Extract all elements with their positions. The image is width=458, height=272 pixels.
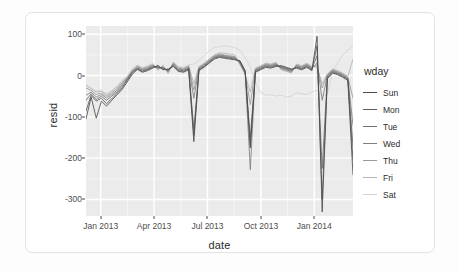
legend-item-label: Fri <box>383 173 393 183</box>
legend-title: wday <box>362 65 432 77</box>
x-axis: Jan 2013Apr 2013Jul 2013Oct 2013Jan 2014 <box>86 216 353 236</box>
y-tick-label: 0 <box>30 71 82 81</box>
y-axis-title: resid <box>47 85 59 145</box>
legend-item-sun: Sun <box>362 84 432 101</box>
plot-canvas <box>86 26 353 216</box>
y-tick-label: -200 <box>30 153 82 163</box>
y-tick-mark <box>82 116 85 117</box>
x-tick-mark <box>207 216 208 219</box>
x-tick-label: Jan 2014 <box>297 221 332 231</box>
legend-item-label: Tue <box>383 122 397 132</box>
ggplot-figure: 1000-100-200-300 Jan 2013Apr 2013Jul 201… <box>26 13 434 252</box>
legend-item-sat: Sat <box>362 186 432 203</box>
x-tick-label: Apr 2013 <box>137 221 172 231</box>
y-tick-mark <box>82 158 85 159</box>
legend-item-mon: Mon <box>362 101 432 118</box>
legend-items: SunMonTueWedThuFriSat <box>362 84 432 203</box>
legend-item-tue: Tue <box>362 118 432 135</box>
legend-item-label: Wed <box>383 139 400 149</box>
legend-item-thu: Thu <box>362 152 432 169</box>
screenshot-root: 1000-100-200-300 Jan 2013Apr 2013Jul 201… <box>0 0 458 272</box>
legend-key-line-icon <box>362 170 378 185</box>
y-tick-mark <box>82 75 85 76</box>
legend: wday SunMonTueWedThuFriSat <box>362 65 432 203</box>
chart-card: 1000-100-200-300 Jan 2013Apr 2013Jul 201… <box>25 12 435 253</box>
legend-key-line-icon <box>362 136 378 151</box>
y-tick-mark <box>82 199 85 200</box>
legend-key-line-icon <box>362 119 378 134</box>
x-tick-label: Oct 2013 <box>244 221 279 231</box>
y-tick-mark <box>82 34 85 35</box>
legend-item-fri: Fri <box>362 169 432 186</box>
y-tick-label: -300 <box>30 194 82 204</box>
legend-item-wed: Wed <box>362 135 432 152</box>
x-tick-mark <box>260 216 261 219</box>
x-tick-label: Jan 2013 <box>83 221 118 231</box>
legend-item-label: Thu <box>383 156 398 166</box>
legend-item-label: Sun <box>383 88 398 98</box>
x-axis-title: date <box>86 239 353 251</box>
x-tick-mark <box>314 216 315 219</box>
y-tick-label: 100 <box>30 29 82 39</box>
x-tick-label: Jul 2013 <box>191 221 223 231</box>
plot-panel <box>86 26 353 216</box>
x-tick-mark <box>100 216 101 219</box>
legend-key-line-icon <box>362 85 378 100</box>
legend-key-line-icon <box>362 153 378 168</box>
legend-item-label: Sat <box>383 190 396 200</box>
legend-item-label: Mon <box>383 105 400 115</box>
legend-key-line-icon <box>362 187 378 202</box>
legend-key-line-icon <box>362 102 378 117</box>
x-tick-mark <box>154 216 155 219</box>
